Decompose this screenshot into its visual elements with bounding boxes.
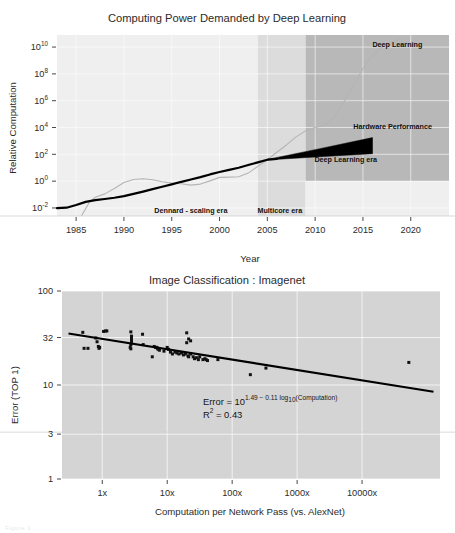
x-tick-label-2: 1x bbox=[97, 488, 107, 498]
scatter-point bbox=[98, 346, 101, 349]
scatter-point bbox=[151, 355, 154, 358]
chart-computing-power: 10-2100102104106108101019851990199520002… bbox=[0, 0, 455, 268]
x-tick-label: 2010 bbox=[305, 225, 325, 235]
annotation-4: Multicore era bbox=[257, 206, 303, 215]
x-tick-label: 2000 bbox=[209, 225, 229, 235]
era-band-2-lower bbox=[306, 181, 449, 216]
scatter-point bbox=[129, 347, 132, 350]
scatter-point bbox=[162, 350, 165, 353]
scatter-point bbox=[177, 352, 180, 355]
scatter-point bbox=[171, 352, 174, 355]
scatter-point bbox=[81, 331, 84, 334]
x-axis-title-2: Computation per Network Pass (vs. AlexNe… bbox=[155, 506, 345, 517]
x-tick-label: 2015 bbox=[353, 225, 373, 235]
annotation-2: Deep Learning era bbox=[314, 155, 378, 164]
imagenet-error-svg: 1003210311x10x100x1000x10000xError = 101… bbox=[0, 265, 455, 533]
chart-imagenet-error: 1003210311x10x100x1000x10000xError = 101… bbox=[0, 265, 455, 533]
y-tick-label-2: 1 bbox=[48, 474, 53, 484]
x-tick-label-2: 10x bbox=[160, 488, 175, 498]
scatter-point bbox=[86, 347, 89, 350]
x-tick-label: 2005 bbox=[257, 225, 277, 235]
y-tick-label-2: 3 bbox=[48, 429, 53, 439]
annotation-1: Hardware Performance bbox=[353, 122, 432, 131]
x-axis-title: Year bbox=[240, 253, 260, 264]
scatter-point bbox=[206, 359, 209, 362]
y-axis-title-2: Error (TOP 1) bbox=[9, 366, 20, 424]
x-tick-label: 1990 bbox=[114, 225, 134, 235]
y-tick-label-2: 32 bbox=[43, 333, 53, 343]
scatter-point bbox=[407, 361, 410, 364]
equation-line-2: R2 = 0.43 bbox=[203, 407, 242, 419]
era-band-1 bbox=[258, 35, 306, 216]
annotation-3: Dennard - scaling era bbox=[154, 206, 228, 215]
scatter-point bbox=[185, 331, 188, 334]
page-title-2: Image Classification : Imagenet bbox=[149, 274, 306, 286]
scatter-point bbox=[129, 330, 132, 333]
scatter-point bbox=[185, 341, 188, 344]
scatter-point bbox=[264, 367, 267, 370]
scatter-point bbox=[249, 373, 252, 376]
plot-area-bottom: 1003210311x10x100x1000x10000xError = 101… bbox=[0, 286, 455, 498]
y-axis-title: Relative Computation bbox=[7, 82, 18, 174]
page-title: Computing Power Demanded by Deep Learnin… bbox=[108, 12, 346, 24]
faint-caption: Figure 1 bbox=[5, 525, 31, 531]
x-tick-label-2: 1000x bbox=[285, 488, 310, 498]
computing-power-svg: 10-2100102104106108101019851990199520002… bbox=[0, 0, 455, 268]
figure-root: 10-2100102104106108101019851990199520002… bbox=[0, 0, 455, 533]
scatter-point bbox=[83, 347, 86, 350]
scatter-point bbox=[187, 355, 190, 358]
x-tick-label: 1995 bbox=[162, 225, 182, 235]
x-tick-label: 1985 bbox=[66, 225, 86, 235]
x-tick-label-2: 100x bbox=[222, 488, 242, 498]
scatter-point bbox=[96, 340, 99, 343]
y-tick-label-2: 10 bbox=[43, 380, 53, 390]
scatter-point bbox=[197, 358, 200, 361]
annotation-0: Deep Learning bbox=[372, 40, 422, 49]
scatter-point bbox=[141, 333, 144, 336]
x-tick-label: 2020 bbox=[401, 225, 421, 235]
x-tick-label-2: 10000x bbox=[347, 488, 378, 498]
scatter-point bbox=[189, 339, 192, 342]
plot-area-top: 10-2100102104106108101019851990199520002… bbox=[0, 35, 455, 235]
scatter-point bbox=[198, 355, 201, 358]
y-tick-label-2: 100 bbox=[38, 286, 53, 296]
scatter-point bbox=[105, 329, 108, 332]
